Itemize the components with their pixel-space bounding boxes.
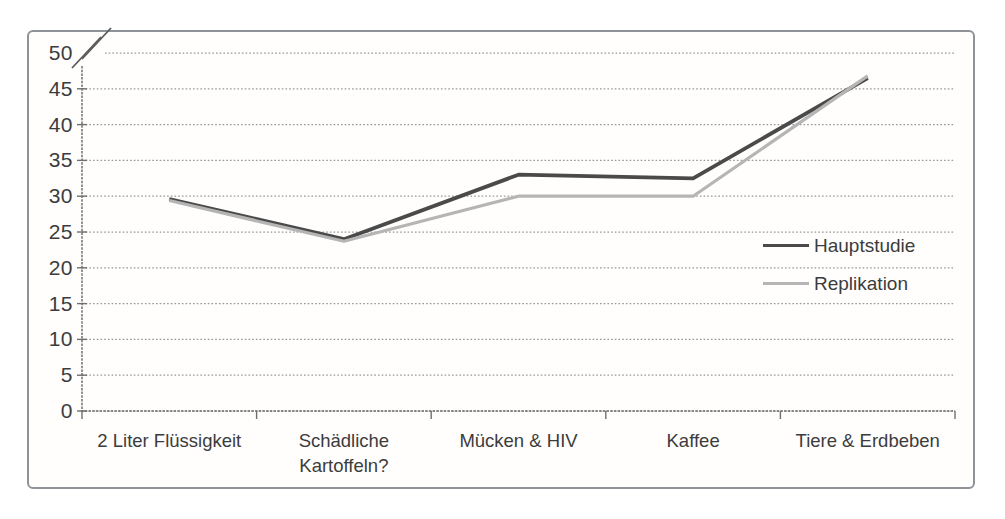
- axis-break-icon: [82, 28, 111, 59]
- y-axis-label: 50: [28, 40, 73, 66]
- x-axis-label: Schädliche Kartoffeln?: [264, 428, 424, 478]
- legend: HauptstudieReplikation: [763, 233, 915, 296]
- legend-item: Hauptstudie: [763, 233, 915, 258]
- y-axis-label: 5: [28, 362, 73, 388]
- y-axis-label: 15: [28, 291, 73, 317]
- legend-line-swatch: [763, 282, 809, 285]
- legend-line-swatch: [763, 244, 809, 247]
- x-axis-label: Tiere & Erdbeben: [788, 428, 948, 453]
- series-line-hauptstudie: [169, 78, 867, 239]
- y-axis-label: 10: [28, 326, 73, 352]
- y-axis-label: 0: [28, 398, 73, 424]
- x-axis-label: Kaffee: [613, 428, 773, 453]
- x-axis-label: Mücken & HIV: [439, 428, 599, 453]
- y-axis-label: 35: [28, 147, 73, 173]
- axis-break-icon: [72, 37, 101, 68]
- series-line-replikation: [169, 76, 867, 241]
- legend-item: Replikation: [763, 271, 915, 296]
- legend-label: Hauptstudie: [814, 235, 915, 257]
- y-axis-label: 25: [28, 219, 73, 245]
- y-axis-label: 20: [28, 255, 73, 281]
- legend-label: Replikation: [814, 273, 908, 295]
- y-axis-label: 45: [28, 76, 73, 102]
- y-axis-label: 40: [28, 112, 73, 138]
- y-axis-label: 30: [28, 183, 73, 209]
- x-axis-label: 2 Liter Flüssigkeit: [89, 428, 249, 453]
- x-axis-labels: 2 Liter FlüssigkeitSchädliche Kartoffeln…: [0, 428, 1005, 488]
